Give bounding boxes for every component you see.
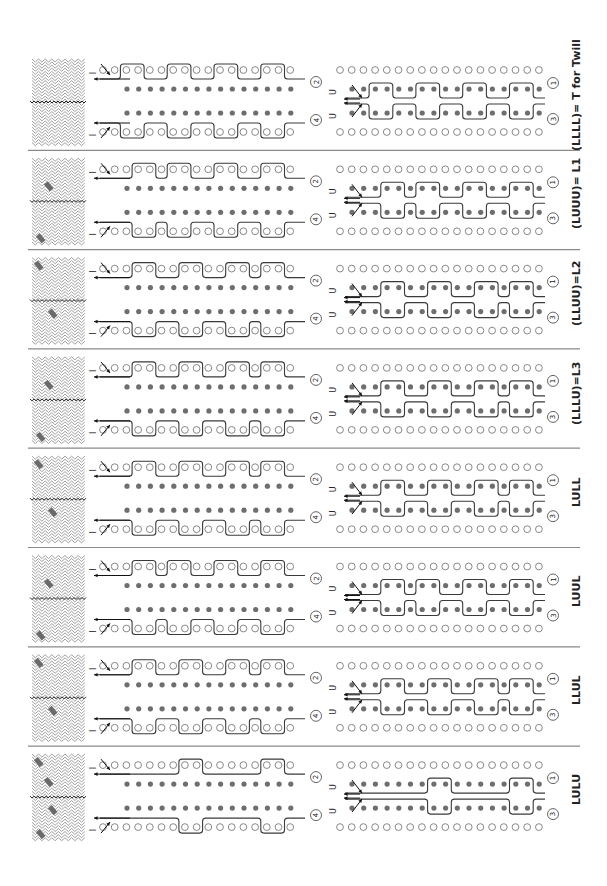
left-top-filled-pegs	[124, 583, 293, 588]
left-top-filled-pegs	[124, 782, 293, 787]
strip-label: LULL	[570, 477, 583, 507]
marker-bottom: I	[89, 829, 98, 831]
marker-bottom: I	[89, 233, 98, 235]
left-bottom-open-pegs	[100, 724, 294, 731]
circle-2: 2	[313, 278, 321, 282]
right-top-filled-pegs	[349, 86, 541, 91]
marker-u-bottom: U	[329, 609, 338, 615]
right-top-open-pegs	[337, 265, 543, 272]
circle-4: 4	[313, 316, 321, 321]
strip-llul: IIUU2413	[28, 655, 580, 746]
strip-label: (LUUU)= L1	[570, 158, 583, 229]
weave-swatch	[30, 59, 86, 146]
strip-lulu: IIUU2413	[30, 754, 559, 841]
right-bottom-filled-pegs	[349, 508, 541, 513]
strip-label: (LLLU)=L3	[570, 361, 583, 425]
left-top-open-pegs	[100, 265, 294, 272]
circle-4: 4	[313, 614, 321, 619]
marker-u-top: U	[329, 387, 338, 393]
left-bottom-filled-pegs	[124, 806, 293, 811]
marker-u-top: U	[329, 685, 338, 691]
circle-3: 3	[550, 713, 558, 717]
circle-3: 3	[550, 315, 558, 319]
circle-4: 4	[313, 117, 321, 122]
marker-u-bottom: U	[329, 510, 338, 516]
circle-4: 4	[313, 812, 321, 817]
right-bottom-filled-pegs	[349, 309, 541, 314]
marker-top: I	[89, 370, 98, 372]
marker-top: I	[89, 469, 98, 471]
left-top-open-pegs	[100, 67, 294, 74]
circle-2: 2	[313, 179, 321, 183]
weaving-diagram: IIUU2413IIUU2413IIUU2413IIUU2413IIUU2413…	[0, 0, 607, 886]
marker-u-bottom: U	[329, 212, 338, 218]
left-bottom-open-pegs	[100, 327, 294, 334]
weave-swatch	[30, 456, 86, 543]
left-bottom-open-pegs	[100, 824, 294, 831]
strip-lull: IIUU2413	[28, 456, 580, 547]
left-top-filled-pegs	[124, 384, 293, 389]
right-bottom-open-pegs	[337, 724, 543, 731]
marker-u-bottom: U	[329, 113, 338, 119]
left-bottom-open-pegs	[100, 526, 294, 533]
circle-2: 2	[313, 378, 321, 382]
right-bottom-filled-pegs	[349, 607, 541, 612]
weave-swatch	[30, 258, 86, 345]
weave-swatch	[30, 754, 86, 841]
strip-label: (LLUU)=L2	[570, 260, 583, 325]
left-top-open-pegs	[100, 365, 294, 372]
marker-bottom: I	[89, 432, 98, 434]
right-bottom-open-pegs	[337, 228, 543, 235]
right-bottom-filled-pegs	[349, 706, 541, 711]
left-bottom-filled-pegs	[124, 706, 293, 711]
marker-u-top: U	[329, 486, 338, 492]
marker-top: I	[89, 171, 98, 173]
weave-swatch	[30, 357, 86, 444]
circle-1: 1	[550, 279, 558, 283]
marker-u-bottom: U	[329, 411, 338, 417]
right-top-filled-pegs	[349, 484, 541, 489]
right-bottom-open-pegs	[337, 427, 543, 434]
left-top-filled-pegs	[124, 285, 293, 290]
right-top-open-pegs	[337, 762, 543, 769]
left-bottom-filled-pegs	[124, 408, 293, 413]
left-bottom-filled-pegs	[124, 110, 293, 115]
right-bottom-filled-pegs	[349, 210, 541, 215]
right-top-open-pegs	[337, 662, 543, 669]
right-top-filled-pegs	[349, 782, 541, 787]
right-bottom-filled-pegs	[349, 408, 541, 413]
right-top-open-pegs	[337, 166, 543, 173]
marker-u-top: U	[329, 288, 338, 294]
circle-2: 2	[313, 576, 321, 580]
left-top-open-pegs	[100, 762, 294, 769]
circle-3: 3	[550, 117, 558, 121]
strip-label: (LLLL)= T for Twill	[570, 39, 583, 151]
right-top-filled-pegs	[349, 384, 541, 389]
right-top-open-pegs	[337, 67, 543, 74]
left-bottom-filled-pegs	[124, 607, 293, 612]
left-bottom-filled-pegs	[124, 508, 293, 513]
right-bottom-open-pegs	[337, 129, 543, 136]
strip-label: LULU	[570, 774, 583, 805]
marker-bottom: I	[89, 730, 98, 732]
right-top-open-pegs	[337, 563, 543, 570]
right-top-open-pegs	[337, 365, 543, 372]
marker-bottom: I	[89, 134, 98, 136]
circle-2: 2	[313, 775, 321, 779]
circle-1: 1	[550, 379, 558, 383]
circle-3: 3	[550, 613, 558, 617]
marker-top: I	[89, 72, 98, 74]
left-top-filled-pegs	[124, 484, 293, 489]
marker-u-top: U	[329, 585, 338, 591]
right-top-filled-pegs	[349, 186, 541, 191]
right-top-filled-pegs	[349, 682, 541, 687]
circle-4: 4	[313, 514, 321, 519]
left-top-filled-pegs	[124, 186, 293, 191]
marker-u-top: U	[329, 784, 338, 790]
strip-lllu: IIUU2413	[28, 357, 580, 448]
left-top-open-pegs	[100, 662, 294, 669]
marker-top: I	[89, 767, 98, 769]
right-bottom-open-pegs	[337, 625, 543, 632]
right-bottom-open-pegs	[337, 824, 543, 831]
marker-u-bottom: U	[329, 808, 338, 814]
